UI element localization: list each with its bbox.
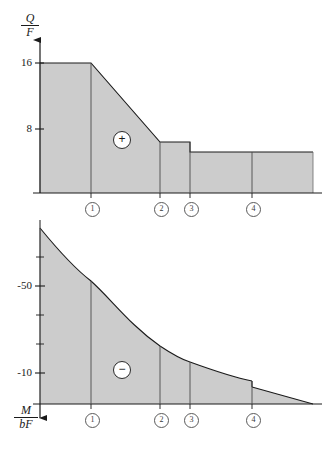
moment-y-axis-label-numerator: M	[14, 404, 38, 417]
shear-ytick-label-16: 16	[8, 56, 32, 68]
moment-ytick-label-10: -10	[4, 366, 32, 378]
moment-negative-sign-marker: −	[113, 361, 131, 379]
moment-shaded-region	[40, 228, 313, 404]
moment-y-axis-label-denominator: bF	[14, 418, 38, 431]
shear-station-label-4: 4	[246, 202, 261, 217]
figure-stage: Q F 16 8 + 1 2 3 4 M bF -50 -10 − 1 2 3 …	[0, 0, 330, 462]
shear-positive-sign-marker: +	[113, 131, 131, 149]
shear-y-axis-label-numerator: Q	[21, 12, 39, 25]
diagrams-svg	[0, 0, 330, 462]
shear-station-label-1: 1	[85, 202, 100, 217]
minus-icon: −	[114, 362, 130, 378]
shear-force-diagram	[33, 40, 322, 198]
moment-station-label-3: 3	[184, 413, 199, 428]
moment-y-axis-label: M bF	[14, 404, 38, 430]
bending-moment-diagram	[33, 220, 322, 418]
shear-y-axis-label: Q F	[21, 12, 39, 38]
shear-ytick-label-8: 8	[8, 122, 32, 134]
shear-station-label-3: 3	[184, 202, 199, 217]
plus-icon: +	[114, 132, 130, 148]
moment-station-label-1: 1	[85, 413, 100, 428]
moment-station-label-4: 4	[246, 413, 261, 428]
shear-shaded-region	[40, 63, 313, 193]
moment-ytick-label-50: -50	[4, 279, 32, 291]
shear-station-label-2: 2	[154, 202, 169, 217]
moment-station-label-2: 2	[154, 413, 169, 428]
shear-y-axis-label-denominator: F	[21, 26, 39, 39]
